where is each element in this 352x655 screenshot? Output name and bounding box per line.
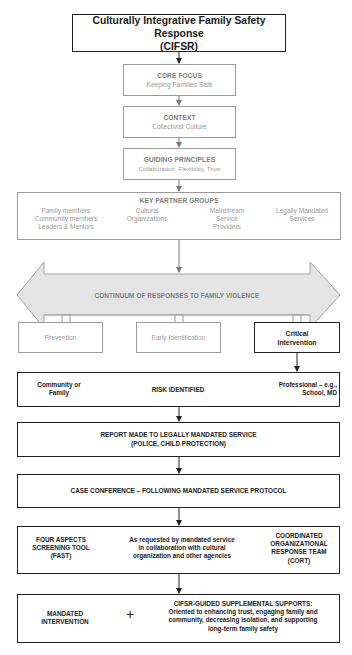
partner-group-family: Family members Community members Leaders… — [22, 207, 110, 231]
partner-line: Cultural — [114, 207, 180, 215]
report-line2: (POLICE, CHILD PROTECTION) — [131, 440, 226, 448]
plus-icon: + — [118, 606, 142, 622]
guiding-principles-text: Collaboration, Flexibility, Trust — [138, 164, 220, 173]
early-identification-box: Early Identification — [136, 322, 221, 353]
supports-line: community, decreasing isolation, and sup… — [146, 616, 340, 624]
cort-line: ORGANIZATIONAL — [258, 540, 340, 548]
risk-right-line: School, MD — [251, 389, 337, 397]
guiding-principles-box: GUIDING PRINCIPLES Collaboration, Flexib… — [123, 148, 236, 180]
outcome-box: MANDATED INTERVENTION + CIFSR-GUIDED SUP… — [17, 594, 340, 643]
prevention-label: Prevention — [45, 333, 77, 342]
critical-line1: Critical — [285, 329, 308, 338]
context-box: CONTEXT Collectivist Culture — [123, 106, 236, 138]
core-focus-box: CORE FOCUS Keeping Families Safe — [123, 64, 236, 96]
risk-left-line: Family — [24, 389, 94, 397]
partner-line: Mainstream — [192, 207, 262, 215]
partner-group-mainstream: Mainstream Service Providers — [192, 207, 262, 231]
supports-line: long-term family safety — [146, 625, 340, 633]
case-conference-label: CASE CONFERENCE – FOLLOWING MANDATED SER… — [71, 487, 287, 495]
report-line1: REPORT MADE TO LEGALLY MANDATED SERVICE — [100, 431, 256, 439]
title-line1: Culturally Integrative Family Safety Res… — [73, 14, 285, 40]
critical-intervention-box: Critical Intervention — [254, 322, 340, 353]
report-box: REPORT MADE TO LEGALLY MANDATED SERVICE … — [17, 422, 340, 457]
cort-line: COORDINATED — [258, 532, 340, 540]
prevention-box: Prevention — [18, 322, 103, 353]
collab-line: As requested by mandated service — [110, 536, 254, 544]
guiding-principles-heading: GUIDING PRINCIPLES — [144, 155, 215, 164]
mandated-line: INTERVENTION — [24, 618, 106, 626]
fast-tool: FOUR ASPECTS SCREENING TOOL (FAST) — [21, 536, 101, 561]
critical-line2: Intervention — [278, 338, 317, 347]
context-heading: CONTEXT — [163, 113, 195, 122]
partner-line: Providers — [192, 223, 262, 231]
risk-source-community: Community or Family — [24, 381, 94, 397]
risk-right-line: Professional – e.g., — [251, 381, 337, 389]
collab-line: in collaboration with cultural — [110, 544, 254, 552]
continuum-label: CONTINUUM OF RESPONSES TO FAMILY VIOLENC… — [44, 291, 310, 300]
fast-line: FOUR ASPECTS — [21, 536, 101, 544]
core-focus-heading: CORE FOCUS — [157, 71, 202, 80]
fast-line: SCREENING TOOL — [21, 544, 101, 552]
risk-identified-label: RISK IDENTIFIED — [123, 386, 233, 394]
supports-line: Oriented to enhancing trust, engaging fa… — [146, 608, 340, 616]
key-partner-heading: KEY PARTNER GROUPS — [18, 196, 340, 205]
risk-left-line: Community or — [24, 381, 94, 389]
partner-group-cultural: Cultural Organizations — [114, 207, 180, 223]
partner-line: Legally Mandated — [264, 207, 340, 215]
key-partner-groups-box: KEY PARTNER GROUPS Family members Commun… — [17, 192, 341, 240]
cifsr-title-box: Culturally Integrative Family Safety Res… — [72, 14, 286, 52]
partner-line: Community members — [22, 215, 110, 223]
mandated-line: MANDATED — [24, 610, 106, 618]
mandated-intervention: MANDATED INTERVENTION — [24, 610, 106, 626]
early-identification-label: Early Identification — [152, 333, 206, 342]
cort-line: (CORT) — [258, 557, 340, 565]
fast-line: (FAST) — [21, 552, 101, 560]
collaboration-note: As requested by mandated service in coll… — [110, 536, 254, 561]
partner-line: Service — [192, 215, 262, 223]
title-line2: (CIFSR) — [160, 40, 198, 53]
case-conference-box: CASE CONFERENCE – FOLLOWING MANDATED SER… — [17, 474, 340, 508]
risk-source-professional: Professional – e.g., School, MD — [251, 381, 337, 397]
supplemental-supports: CIFSR-GUIDED SUPPLEMENTAL SUPPORTS: Orie… — [146, 600, 340, 633]
supports-heading: CIFSR-GUIDED SUPPLEMENTAL SUPPORTS: — [146, 600, 340, 608]
partner-line: Leaders & Mentors — [22, 223, 110, 231]
partner-line: Family members — [22, 207, 110, 215]
cort-team: COORDINATED ORGANIZATIONAL RESPONSE TEAM… — [258, 532, 340, 565]
risk-identified-box: Community or Family RISK IDENTIFIED Prof… — [17, 372, 340, 407]
context-text: Collectivist Culture — [152, 122, 207, 131]
partner-line: Organizations — [114, 215, 180, 223]
partner-line: Services — [264, 215, 340, 223]
core-focus-text: Keeping Families Safe — [147, 80, 213, 89]
tools-box: FOUR ASPECTS SCREENING TOOL (FAST) As re… — [17, 526, 340, 574]
partner-group-legal: Legally Mandated Services — [264, 207, 340, 223]
collab-line: organization and other agencies — [110, 552, 254, 560]
cort-line: RESPONSE TEAM — [258, 548, 340, 556]
